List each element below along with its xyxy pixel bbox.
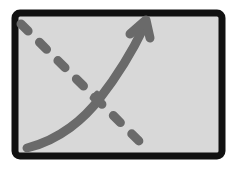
- trend-chart-icon: Chart icon with a descending dashed line…: [0, 0, 244, 172]
- chart-frame: [15, 13, 222, 156]
- chart-illustration: [0, 0, 244, 172]
